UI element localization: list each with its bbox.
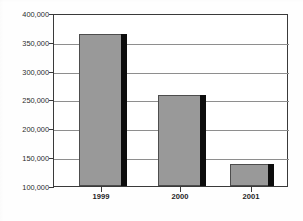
y-axis-label-100000: 100,000: [3, 184, 49, 191]
bar-2000[interactable]: [158, 95, 206, 186]
bar-chart: 400,000 350,000 300,000 250,000 200,000 …: [0, 0, 303, 221]
bar-1999[interactable]: [79, 34, 127, 186]
y-axis-label-250000: 250,000: [3, 97, 49, 104]
bar-shadow-1999: [121, 34, 127, 186]
y-axis-label-300000: 300,000: [3, 69, 49, 76]
bar-shadow-2001: [268, 164, 274, 186]
x-axis-label-2000: 2000: [150, 193, 210, 201]
x-axis-label-1999: 1999: [71, 193, 131, 201]
y-axis-label-200000: 200,000: [3, 126, 49, 133]
y-axis-label-350000: 350,000: [3, 40, 49, 47]
y-axis-label-150000: 150,000: [3, 155, 49, 162]
bar-2001[interactable]: [230, 164, 274, 186]
plot-area: [53, 14, 288, 187]
y-axis-label-400000: 400,000: [3, 11, 49, 18]
bar-shadow-2000: [200, 95, 206, 186]
x-axis-label-2001: 2001: [221, 193, 281, 201]
